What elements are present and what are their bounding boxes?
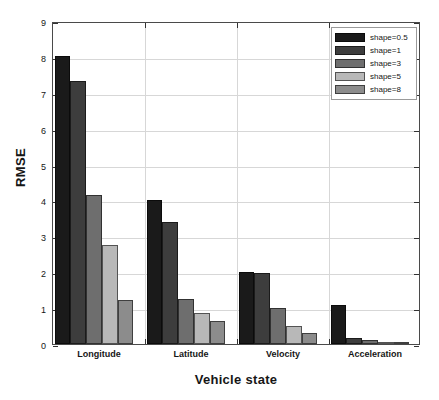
- y-tick-mark: [414, 274, 419, 275]
- gridline-horizontal: [53, 238, 419, 239]
- bar: [270, 308, 286, 344]
- x-tick-label: Acceleration: [348, 349, 402, 359]
- bar: [118, 300, 134, 344]
- y-tick-label: 5: [41, 162, 46, 172]
- y-tick-mark: [414, 238, 419, 239]
- y-tick-label: 6: [41, 126, 46, 136]
- chart-legend[interactable]: shape=0.5shape=1shape=3shape=5shape=8: [331, 27, 417, 100]
- gridline-horizontal: [53, 131, 419, 132]
- gridline-horizontal: [53, 167, 419, 168]
- x-tick-mark: [329, 23, 330, 28]
- y-tick-label: 9: [41, 18, 46, 28]
- legend-item[interactable]: shape=5: [335, 70, 413, 83]
- y-tick-mark: [414, 346, 419, 347]
- bar: [239, 272, 255, 344]
- legend-item[interactable]: shape=8: [335, 83, 413, 96]
- legend-item[interactable]: shape=3: [335, 57, 413, 70]
- y-tick-label: 0: [41, 341, 46, 351]
- legend-label: shape=3: [370, 59, 401, 68]
- bar: [286, 326, 302, 344]
- x-tick-label: Velocity: [266, 349, 300, 359]
- y-tick-mark: [414, 167, 419, 168]
- gridline-vertical: [329, 23, 330, 344]
- x-tick-label: Longitude: [77, 349, 121, 359]
- bar: [86, 195, 102, 344]
- y-tick-mark: [414, 131, 419, 132]
- y-tick-mark: [414, 202, 419, 203]
- y-tick-label: 7: [41, 90, 46, 100]
- legend-item[interactable]: shape=0.5: [335, 31, 413, 44]
- y-tick-mark: [53, 346, 58, 347]
- bar: [362, 340, 378, 344]
- y-tick-mark: [414, 310, 419, 311]
- bar: [162, 222, 178, 344]
- bar: [254, 273, 270, 344]
- bar: [210, 321, 226, 344]
- legend-item[interactable]: shape=1: [335, 44, 413, 57]
- bar: [55, 56, 71, 344]
- y-tick-label: 4: [41, 197, 46, 207]
- bar: [178, 299, 194, 344]
- y-tick-label: 1: [41, 305, 46, 315]
- bar: [147, 200, 163, 344]
- y-tick-label: 8: [41, 54, 46, 64]
- legend-label: shape=5: [370, 72, 401, 81]
- bar: [394, 342, 410, 344]
- legend-swatch: [335, 46, 365, 55]
- legend-label: shape=1: [370, 46, 401, 55]
- x-tick-mark: [145, 23, 146, 28]
- legend-swatch: [335, 72, 365, 81]
- bar: [102, 245, 118, 344]
- y-tick-label: 3: [41, 233, 46, 243]
- bar: [70, 81, 86, 344]
- y-tick-mark: [53, 23, 58, 24]
- legend-swatch: [335, 59, 365, 68]
- bar: [194, 313, 210, 344]
- chart-figure: RMSE 0123456789 LongitudeLatitudeVelocit…: [0, 0, 439, 400]
- x-axis-title: Vehicle state: [52, 372, 420, 387]
- y-tick-label: 2: [41, 269, 46, 279]
- legend-swatch: [335, 85, 365, 94]
- bar: [331, 305, 347, 344]
- y-axis-title: RMSE: [13, 118, 28, 218]
- legend-label: shape=0.5: [370, 33, 408, 42]
- x-tick-mark: [237, 23, 238, 28]
- bar: [346, 338, 362, 344]
- bar: [302, 333, 318, 344]
- legend-label: shape=8: [370, 85, 401, 94]
- gridline-horizontal: [53, 202, 419, 203]
- x-tick-label: Latitude: [174, 349, 209, 359]
- legend-swatch: [335, 33, 365, 42]
- bar: [378, 342, 394, 344]
- y-tick-mark: [414, 23, 419, 24]
